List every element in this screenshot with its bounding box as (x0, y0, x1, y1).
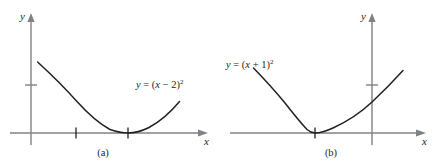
y-axis-arrowhead-b (368, 13, 375, 22)
curve-equation-label-b: y = (x + 1)2 (225, 58, 274, 71)
parabola-curve-b (254, 68, 404, 133)
panel-a-svg: y x y = (x − 2)2 (a) (0, 0, 221, 163)
curve-label-a-mid: − 2) (160, 79, 180, 91)
parabola-curve-a (38, 62, 180, 133)
figure-root: y x y = (x − 2)2 (a) (0, 0, 442, 163)
curve-label-b-eq: = ( (231, 59, 246, 71)
y-axis-label-a: y (19, 10, 25, 22)
chart-panel-b: y x y = (x + 1)2 (b) (221, 0, 442, 163)
chart-panel-a: y x y = (x − 2)2 (a) (0, 0, 221, 163)
curve-equation-label-a: y = (x − 2)2 (135, 78, 184, 91)
panel-b-svg: y x y = (x + 1)2 (b) (221, 0, 442, 163)
x-axis-label-b: x (421, 135, 427, 147)
panel-caption-a: (a) (97, 147, 109, 159)
y-axis-arrowhead-a (27, 13, 34, 22)
x-axis-label-a: x (203, 135, 209, 147)
curve-label-a-eq: = ( (141, 79, 156, 91)
curve-label-a-exp: 2 (180, 78, 184, 86)
panel-caption-b: (b) (325, 147, 338, 159)
curve-label-b-exp: 2 (270, 58, 274, 66)
curve-label-b-mid: + 1) (250, 59, 270, 71)
y-axis-label-b: y (360, 10, 366, 22)
